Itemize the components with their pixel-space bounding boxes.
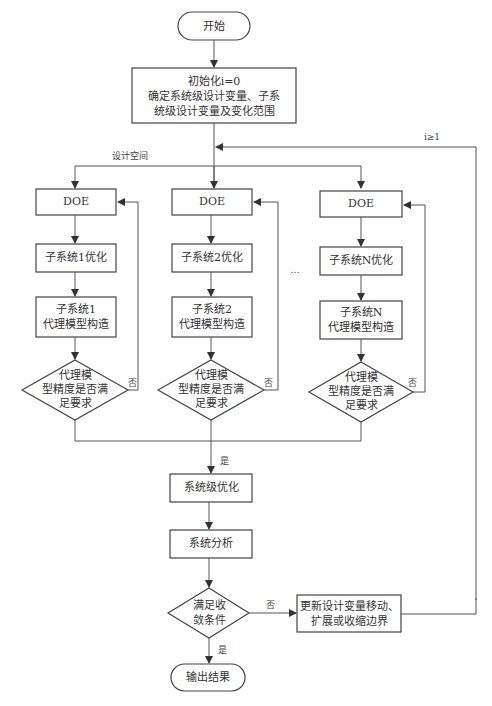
loop-label: i≥1 [424, 132, 440, 142]
yes-label-2: 是 [218, 645, 227, 655]
subsystem-column-1: DOE 子系统1优化 子系统1 代理模型构造 代理模 型精度是否满 足要求 否 [22, 189, 138, 420]
decision-2-line1: 代理模 [195, 369, 228, 382]
surrogate-label-1b: 代理模型构造 [43, 317, 109, 331]
no-label-1: 否 [128, 378, 137, 388]
init-box: 初始化i=0 确定系统级设计变量、子系 统级设计变量及变化范围 [132, 68, 296, 123]
init-line2: 确定系统级设计变量、子系 [148, 89, 280, 103]
update-line2: 扩展或收缩边界 [311, 614, 388, 628]
surrogate-label-1a: 子系统1 [56, 303, 96, 316]
no-loop-2 [254, 202, 278, 390]
decision-n-line3: 足要求 [345, 399, 378, 412]
decision-1-line2: 型精度是否满 [42, 382, 108, 396]
join-line [75, 420, 361, 441]
surrogate-label-2b: 代理模型构造 [179, 317, 245, 331]
update-line1: 更新设计变量移动、 [300, 599, 399, 613]
decision-1-line1: 代理模 [59, 369, 92, 382]
no-label-n: 否 [408, 378, 417, 388]
surrogate-label-na: 子系统N [340, 306, 383, 319]
decision-2-line2: 型精度是否满 [178, 382, 244, 396]
system-optimization-box: 系统级优化 [170, 474, 252, 502]
optimize-label-2: 子系统2优化 [181, 250, 243, 264]
no-label-2: 否 [264, 378, 273, 388]
convergence-line1: 满足收 [193, 598, 226, 612]
surrogate-label-nb: 代理模型构造 [328, 320, 394, 334]
no-loop-1 [118, 202, 138, 390]
subsystem-column-n: DOE 子系统N优化 子系统N 代理模型构造 代理模 型精度是否满 足要求 否 [309, 191, 425, 422]
convergence-line2: 敛条件 [193, 613, 226, 627]
yes-label-1: 是 [220, 456, 229, 466]
update-bounds-box: 更新设计变量移动、 扩展或收缩边界 [297, 595, 401, 632]
optimize-label-1: 子系统1优化 [45, 250, 107, 264]
no-loop-n [404, 205, 425, 392]
subsystem-column-2: DOE 子系统2优化 子系统2 代理模型构造 代理模 型精度是否满 足要求 否 [158, 189, 278, 420]
decision-1-line3: 足要求 [59, 397, 92, 410]
no-label-conv: 否 [266, 600, 275, 610]
doe-label-1: DOE [63, 195, 89, 208]
system-opt-label: 系统级优化 [184, 480, 239, 494]
init-line3: 统级设计变量及变化范围 [154, 104, 275, 118]
convergence-decision: 满足收 敛条件 [168, 588, 249, 638]
surrogate-label-2a: 子系统2 [192, 303, 232, 316]
start-terminal: 开始 [178, 12, 250, 40]
decision-n-line2: 型精度是否满 [328, 384, 394, 398]
ellipsis: … [291, 265, 300, 275]
design-space-label: 设计空间 [112, 150, 148, 161]
system-analysis-box: 系统分析 [170, 530, 252, 558]
decision-2-line3: 足要求 [195, 397, 228, 410]
doe-label-2: DOE [199, 195, 225, 208]
doe-label-n: DOE [348, 197, 374, 210]
flowchart-canvas: 开始 初始化i=0 确定系统级设计变量、子系 统级设计变量及变化范围 i≥1 设… [0, 0, 492, 706]
init-line1: 初始化i=0 [188, 74, 241, 88]
decision-n-line1: 代理模 [345, 371, 378, 384]
output-terminal: 输出结果 [171, 664, 245, 691]
start-label: 开始 [203, 19, 225, 33]
output-label: 输出结果 [186, 670, 230, 684]
optimize-label-n: 子系统N优化 [329, 253, 394, 267]
system-analysis-label: 系统分析 [189, 536, 233, 550]
